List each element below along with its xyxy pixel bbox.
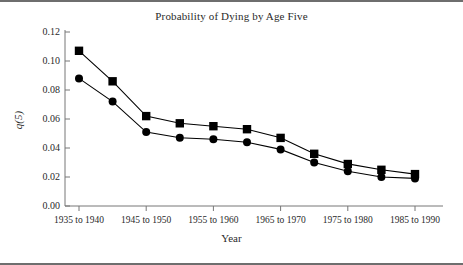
data-point-circle — [243, 138, 251, 146]
x-tick-label: 1985 to 1990 — [375, 215, 455, 225]
data-point-square — [276, 134, 284, 142]
data-point-square — [209, 122, 217, 130]
data-point-circle — [209, 135, 217, 143]
series-line-upper-series — [79, 51, 415, 174]
data-point-square — [243, 125, 251, 133]
data-point-square — [344, 160, 352, 168]
data-point-square — [176, 119, 184, 127]
chart-figure: Probability of Dying by Age Five q(5) 0.… — [0, 0, 463, 265]
data-point-circle — [310, 159, 318, 167]
data-point-square — [377, 166, 385, 174]
data-point-circle — [142, 128, 150, 136]
axes — [65, 30, 443, 211]
data-point-circle — [176, 134, 184, 142]
data-point-square — [108, 77, 116, 85]
series-layer — [75, 47, 419, 183]
data-point-circle — [377, 173, 385, 181]
data-point-circle — [411, 174, 419, 182]
x-axis-label: Year — [0, 232, 463, 244]
y-tick-label: 0.02 — [26, 171, 60, 182]
y-tick-label: 0.06 — [26, 113, 60, 124]
data-point-circle — [344, 167, 352, 175]
y-tick-label: 0.04 — [26, 142, 60, 153]
y-tick-label: 0.12 — [26, 26, 60, 37]
data-point-circle — [109, 98, 117, 106]
data-point-circle — [277, 145, 285, 153]
plot-area — [0, 0, 463, 265]
y-tick-label: 0.10 — [26, 55, 60, 66]
y-tick-label: 0.00 — [26, 200, 60, 211]
data-point-square — [75, 47, 83, 55]
data-point-circle — [75, 74, 83, 82]
data-point-square — [310, 150, 318, 158]
data-point-square — [142, 112, 150, 120]
y-tick-label: 0.08 — [26, 84, 60, 95]
